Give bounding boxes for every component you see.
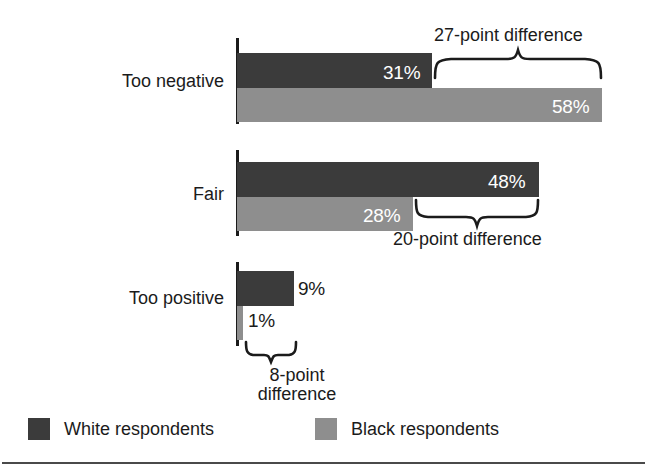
chart-legend: White respondents Black respondents [0, 412, 647, 450]
annotation-8-point-difference: 8-point difference [222, 366, 372, 404]
bar-value-too-negative-white-respondents: 31% [383, 63, 420, 82]
legend-item-white-respondents: White respondents [28, 418, 214, 440]
bar-too-positive-white-respondents [237, 271, 294, 306]
annotation-27-point-difference: 27-point difference [434, 26, 583, 45]
legend-swatch-black-respondents [315, 418, 337, 440]
bar-value-fair-white-respondents: 48% [488, 172, 525, 191]
legend-swatch-white-respondents [28, 418, 50, 440]
bar-value-too-negative-black-respondents: 58% [552, 97, 589, 116]
legend-label-black-respondents: Black respondents [351, 420, 499, 438]
brace-20-point-difference [414, 200, 540, 230]
bar-too-negative-black-respondents [237, 88, 602, 122]
legend-item-black-respondents: Black respondents [315, 418, 499, 440]
brace-27-point-difference [433, 48, 603, 78]
plot-area: Too negative 31% 58% 27-point difference… [0, 0, 647, 400]
annotation-20-point-difference: 20-point difference [393, 230, 542, 249]
legend-label-white-respondents: White respondents [64, 420, 214, 438]
category-label-fair: Fair [60, 185, 224, 203]
bar-value-too-positive-white-respondents: 9% [298, 279, 325, 298]
footer-rule [2, 462, 645, 464]
category-label-too-positive: Too positive [60, 289, 224, 307]
brace-8-point-difference [244, 342, 298, 366]
bar-value-too-positive-black-respondents: 1% [248, 311, 275, 330]
bar-chart-figure: Too negative 31% 58% 27-point difference… [0, 0, 647, 475]
bar-too-positive-black-respondents [237, 306, 243, 340]
category-label-too-negative: Too negative [60, 72, 224, 90]
bar-value-fair-black-respondents: 28% [363, 206, 400, 225]
